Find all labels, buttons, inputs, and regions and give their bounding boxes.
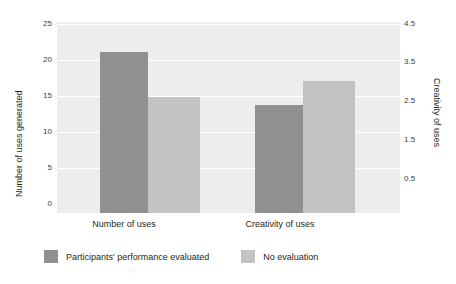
left-tick-25: 25 bbox=[6, 20, 52, 28]
left-tick-15: 15 bbox=[6, 92, 52, 100]
legend-swatch-evaluated bbox=[44, 250, 58, 263]
plot-area bbox=[57, 22, 400, 213]
legend-spacer bbox=[209, 256, 241, 257]
x-label-number-of-uses: Number of uses bbox=[60, 219, 188, 229]
legend-item-no-evaluation: No evaluation bbox=[241, 250, 318, 263]
legend-label-no-evaluation: No evaluation bbox=[263, 252, 318, 262]
legend-swatch-no-evaluation bbox=[241, 250, 255, 263]
legend: Participants' performance evaluated No e… bbox=[44, 250, 318, 263]
bar-creativity-of-uses-evaluated bbox=[255, 105, 303, 213]
legend-item-evaluated: Participants' performance evaluated bbox=[44, 250, 209, 263]
legend-label-evaluated: Participants' performance evaluated bbox=[66, 252, 209, 262]
left-axis-title: Number of uses generated bbox=[14, 90, 24, 197]
bar-chart-figure: 25 20 15 10 5 0 4.5 3.5 2.5 1.5 0.5 Numb… bbox=[0, 0, 456, 284]
x-axis-baseline bbox=[57, 213, 400, 214]
right-tick-0-5: 0.5 bbox=[404, 175, 444, 183]
bar-creativity-of-uses-no-evaluation bbox=[303, 81, 355, 213]
x-label-creativity-of-uses: Creativity of uses bbox=[212, 219, 348, 229]
left-tick-5: 5 bbox=[6, 164, 52, 172]
left-tick-0: 0 bbox=[6, 200, 52, 208]
left-axis-ticks: 25 20 15 10 5 0 bbox=[4, 0, 52, 284]
right-axis-title: Creativity of uses bbox=[432, 78, 442, 147]
bar-number-of-uses-no-evaluation bbox=[148, 97, 200, 213]
left-tick-20: 20 bbox=[6, 56, 52, 64]
bar-number-of-uses-evaluated bbox=[100, 52, 148, 213]
right-tick-3-5: 3.5 bbox=[404, 58, 444, 66]
left-tick-10: 10 bbox=[6, 128, 52, 136]
right-tick-4-5: 4.5 bbox=[404, 20, 444, 28]
gridline-25 bbox=[57, 24, 400, 25]
